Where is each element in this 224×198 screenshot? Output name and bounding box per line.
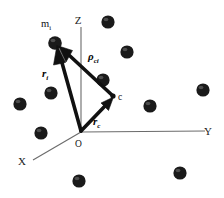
- vector-diagram-figure: Z Y X O c mi ri rc ρci: [0, 0, 224, 198]
- labels-svg: Z Y X O c mi ri rc ρci: [0, 0, 224, 198]
- rho-ci-vector-label: ρci: [87, 50, 99, 65]
- y-axis-label: Y: [204, 125, 212, 137]
- x-axis-label: X: [18, 155, 26, 167]
- origin-label: O: [75, 139, 82, 149]
- center-of-mass-label: c: [118, 92, 122, 102]
- r-c-vector-label: rc: [93, 115, 100, 130]
- r-i-vector-label: ri: [42, 67, 48, 82]
- z-axis-label: Z: [75, 14, 82, 26]
- mass-mi-label: mi: [41, 18, 51, 32]
